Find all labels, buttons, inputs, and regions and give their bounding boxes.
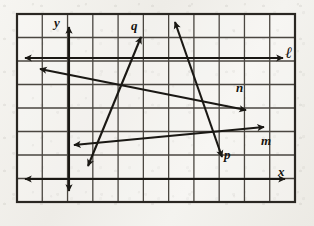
- geometry-figure: [0, 0, 314, 226]
- label-p: p: [224, 148, 231, 161]
- label-y: y: [54, 16, 60, 29]
- label-n: n: [236, 81, 243, 94]
- label-l: ℓ: [285, 45, 292, 61]
- grid-layer: [17, 14, 295, 202]
- label-x: x: [278, 165, 285, 178]
- label-m: m: [261, 134, 271, 147]
- diagram-canvas: yxℓnmqp: [0, 0, 314, 226]
- label-q: q: [131, 19, 138, 32]
